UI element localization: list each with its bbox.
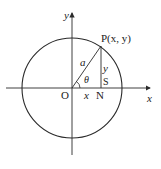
radius-label: a [80, 56, 86, 68]
point-s-label: S [103, 76, 109, 87]
vertical-leg-label: y [102, 62, 108, 74]
angle-arc [77, 82, 81, 89]
origin-label: O [61, 89, 69, 101]
polar-circle-diagram: y x P(x, y) a y θ S O x N [0, 0, 161, 169]
x-axis-label: x [146, 92, 152, 104]
y-axis-label: y [63, 9, 69, 21]
point-n-label: N [96, 89, 104, 101]
point-p-label: P(x, y) [101, 32, 131, 45]
horizontal-leg-label: x [83, 89, 89, 101]
angle-label: θ [84, 74, 89, 85]
